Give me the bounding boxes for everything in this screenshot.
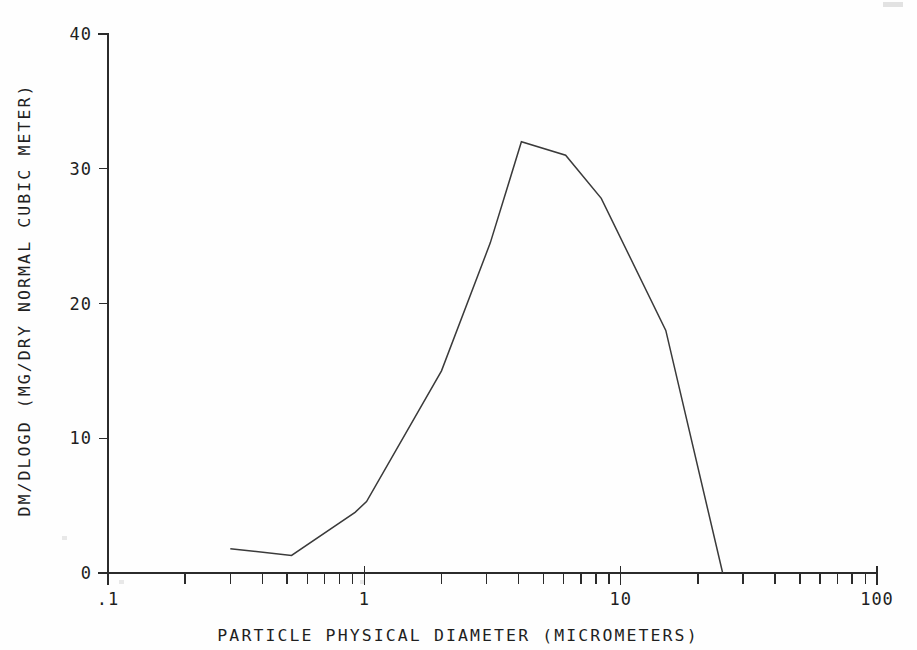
y-axis-tick-label: 20	[70, 294, 92, 314]
x-axis-tick-label: 1	[359, 589, 370, 609]
x-axis-tick-label: .1	[97, 589, 119, 609]
x-axis-major-ticks	[108, 566, 877, 585]
x-axis-tick-label: 10	[609, 589, 631, 609]
data-series-line	[230, 142, 722, 573]
y-axis-tick-label: 40	[70, 24, 92, 44]
x-axis-title: PARTICLE PHYSICAL DIAMETER (MICROMETERS)	[217, 626, 698, 645]
y-axis-tick-labels: 010203040	[70, 24, 92, 583]
chart-page: 010203040 .1110100 PARTICLE PHYSICAL DIA…	[0, 0, 917, 650]
x-axis-tick-labels: .1110100	[97, 589, 894, 609]
y-axis-tick-label: 30	[70, 159, 92, 179]
y-axis-tick-label: 0	[81, 563, 92, 583]
chart-plot: 010203040 .1110100 PARTICLE PHYSICAL DIA…	[0, 0, 917, 650]
y-axis-ticks	[99, 34, 108, 573]
y-axis-tick-label: 10	[70, 428, 92, 448]
x-axis-minor-ticks	[185, 573, 865, 584]
y-axis-title: DM/DLOGD (MG/DRY NORMAL CUBIC METER)	[15, 83, 34, 516]
x-axis-tick-label: 100	[860, 589, 894, 609]
